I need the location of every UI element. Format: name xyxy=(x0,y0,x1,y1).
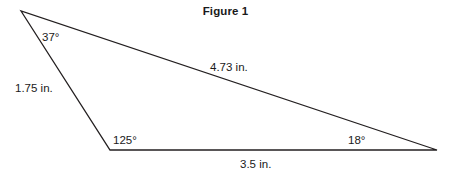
angle-label-18: 18° xyxy=(348,135,365,147)
angle-label-37: 37° xyxy=(42,32,59,44)
triangle-diagram xyxy=(0,0,451,178)
side-label-1-75-in: 1.75 in. xyxy=(15,83,53,95)
side-label-3-5-in: 3.5 in. xyxy=(240,159,271,171)
figure-container: Figure 1 37° 1.75 in. 4.73 in. 125° 18° … xyxy=(0,0,451,178)
side-label-4-73-in: 4.73 in. xyxy=(210,62,248,74)
triangle-outline xyxy=(21,11,437,150)
angle-label-125: 125° xyxy=(113,135,137,147)
